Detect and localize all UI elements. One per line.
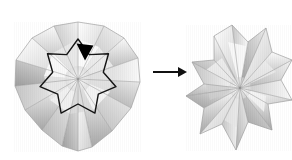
paper-grain-left bbox=[14, 22, 141, 152]
right-origami-model bbox=[186, 25, 292, 151]
figure-canvas bbox=[0, 0, 292, 160]
left-origami-model bbox=[14, 22, 141, 152]
origami-step-diagram bbox=[0, 0, 292, 160]
